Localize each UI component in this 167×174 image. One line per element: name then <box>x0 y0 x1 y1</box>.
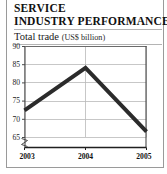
chart-figure-panel: SERVICE INDUSTRY PERFORMANCE Total trade… <box>0 0 167 174</box>
chart-gridlines <box>25 46 147 138</box>
svg-text:2005: 2005 <box>136 152 151 161</box>
svg-text:70: 70 <box>12 115 20 124</box>
chart-y-axis: 908580757065 <box>12 42 25 142</box>
svg-text:2003: 2003 <box>20 152 35 161</box>
svg-text:80: 80 <box>12 78 20 87</box>
svg-text:90: 90 <box>12 42 20 51</box>
svg-text:65: 65 <box>12 133 20 142</box>
line-chart: 908580757065 200320042005 <box>0 0 167 174</box>
svg-text:85: 85 <box>12 60 20 69</box>
svg-text:75: 75 <box>12 96 20 105</box>
y-axis-break-icon <box>22 139 28 147</box>
chart-x-axis: 200320042005 <box>20 148 152 162</box>
svg-text:2004: 2004 <box>78 152 93 161</box>
